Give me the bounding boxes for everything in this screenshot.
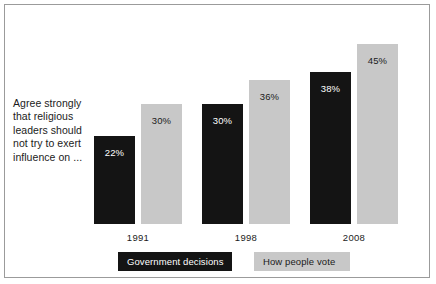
bar-1991-government-decisions: 22% (94, 136, 135, 224)
legend-label: Government decisions (118, 256, 224, 267)
chart-frame: Agree strongly that religious leaders sh… (4, 4, 430, 278)
legend-item-how-people-vote: How people vote (254, 252, 350, 271)
bar-1991-how-people-vote: 30% (141, 104, 182, 224)
bar-1998-government-decisions: 30% (202, 104, 243, 224)
bar-value-label: 30% (141, 115, 182, 126)
x-axis-label-1998: 1998 (202, 232, 290, 243)
bar-2008-how-people-vote: 45% (357, 44, 398, 224)
bar-value-label: 38% (310, 83, 351, 94)
legend-label: How people vote (254, 256, 335, 267)
bar-value-label: 36% (249, 91, 290, 102)
bar-value-label: 22% (94, 147, 135, 158)
chart-legend: Government decisions How people vote (5, 252, 431, 271)
x-axis-label-2008: 2008 (310, 232, 398, 243)
bar-2008-government-decisions: 38% (310, 72, 351, 224)
bar-value-label: 45% (357, 55, 398, 66)
bar-value-label: 30% (202, 115, 243, 126)
caption-line: Agree strongly (13, 97, 109, 110)
bar-1998-how-people-vote: 36% (249, 80, 290, 224)
caption-line: that religious (13, 110, 109, 123)
bar-chart-plot: Agree strongly that religious leaders sh… (5, 5, 431, 279)
x-axis-label-1991: 1991 (94, 232, 182, 243)
legend-item-government-decisions: Government decisions (118, 252, 232, 271)
